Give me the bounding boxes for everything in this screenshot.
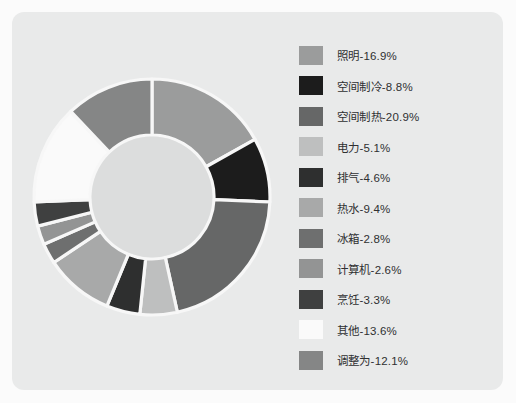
chart-panel: 照明-16.9%空间制冷-8.8%空间制热-20.9%电力-5.1%排气-4.6… [12,12,503,390]
legend-item-space-heating[interactable]: 空间制热-20.9% [287,103,419,129]
donut-chart-svg [22,67,282,327]
legend-swatch-exhaust [299,168,323,187]
chart-legend: 照明-16.9%空间制冷-8.8%空间制热-20.9%电力-5.1%排气-4.6… [287,42,497,387]
legend-swatch-space-cooling [299,76,323,95]
legend-swatch-cooking [299,290,323,309]
legend-label-exhaust: 排气-4.6% [337,169,390,185]
legend-item-computer[interactable]: 计算机-2.6% [287,256,402,282]
legend-label-lighting: 照明-16.9% [337,47,397,63]
legend-swatch-electricity [299,137,323,156]
legend-label-refrigerator: 冰箱-2.8% [337,230,390,246]
donut-chart [22,67,282,327]
legend-item-lighting[interactable]: 照明-16.9% [287,42,397,68]
legend-swatch-computer [299,259,323,278]
legend-swatch-adjusted-to [299,351,323,370]
legend-item-electricity[interactable]: 电力-5.1% [287,134,390,160]
donut-slice-group [34,79,270,315]
legend-swatch-space-heating [299,107,323,126]
screenshot-root: 照明-16.9%空间制冷-8.8%空间制热-20.9%电力-5.1%排气-4.6… [0,0,516,403]
legend-item-hot-water[interactable]: 热水-9.4% [287,195,390,221]
legend-label-electricity: 电力-5.1% [337,139,390,155]
legend-item-other[interactable]: 其他-13.6% [287,317,397,343]
legend-item-cooking[interactable]: 烹饪-3.3% [287,286,390,312]
legend-item-space-cooling[interactable]: 空间制冷-8.8% [287,73,413,99]
legend-item-adjusted-to[interactable]: 调整为-12.1% [287,347,408,373]
legend-swatch-other [299,320,323,339]
legend-label-hot-water: 热水-9.4% [337,200,390,216]
legend-swatch-refrigerator [299,229,323,248]
legend-label-computer: 计算机-2.6% [337,261,402,277]
legend-label-cooking: 烹饪-3.3% [337,291,390,307]
legend-item-exhaust[interactable]: 排气-4.6% [287,164,390,190]
legend-swatch-hot-water [299,198,323,217]
legend-label-other: 其他-13.6% [337,322,397,338]
legend-label-space-heating: 空间制热-20.9% [337,108,419,124]
legend-label-space-cooling: 空间制冷-8.8% [337,78,413,94]
legend-item-refrigerator[interactable]: 冰箱-2.8% [287,225,390,251]
legend-swatch-lighting [299,46,323,65]
donut-hole [92,137,213,258]
legend-label-adjusted-to: 调整为-12.1% [337,352,408,368]
